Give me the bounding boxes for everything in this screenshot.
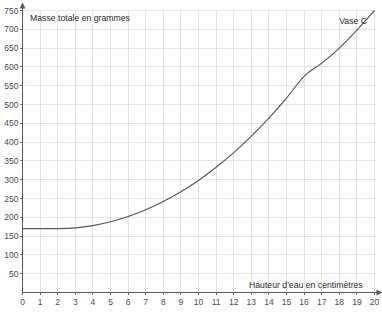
x-tick-label: 4 [91, 297, 96, 307]
x-axis-caption: Hauteur d'eau en centimètres [249, 280, 363, 290]
x-axis-tick-labels: 01234567891011121314151617181920 [20, 297, 379, 307]
x-tick-label: 16 [299, 297, 309, 307]
x-tick-label: 14 [264, 297, 274, 307]
y-tick-label: 50 [9, 269, 19, 279]
x-tick-label: 1 [38, 297, 43, 307]
x-tick-label: 18 [335, 297, 345, 307]
y-tick-label: 100 [4, 250, 18, 260]
x-tick-label: 8 [161, 297, 166, 307]
x-tick-label: 13 [247, 297, 257, 307]
x-tick-label: 19 [352, 297, 362, 307]
chart-plot: 5010015020025030035040045050055060065070… [0, 0, 382, 315]
y-tick-label: 650 [4, 43, 18, 53]
chart-container: 5010015020025030035040045050055060065070… [0, 0, 382, 315]
y-tick-label: 600 [4, 62, 18, 72]
x-tick-label: 3 [73, 297, 78, 307]
y-axis-tick-labels: 5010015020025030035040045050055060065070… [4, 6, 18, 279]
x-tick-label: 0 [20, 297, 25, 307]
x-tick-label: 9 [179, 297, 184, 307]
y-tick-label: 350 [4, 156, 18, 166]
series-label: Vase C [339, 16, 367, 26]
x-tick-label: 15 [282, 297, 292, 307]
x-tick-label: 5 [108, 297, 113, 307]
y-tick-label: 200 [4, 212, 18, 222]
y-tick-label: 500 [4, 100, 18, 110]
x-tick-label: 20 [370, 297, 380, 307]
x-tick-label: 7 [143, 297, 148, 307]
x-tick-label: 12 [229, 297, 239, 307]
y-tick-label: 550 [4, 81, 18, 91]
chart-background [0, 0, 382, 315]
y-tick-label: 400 [4, 137, 18, 147]
x-tick-label: 17 [317, 297, 327, 307]
y-axis-caption: Masse totale en grammes [30, 13, 131, 23]
y-tick-label: 250 [4, 194, 18, 204]
y-tick-label: 300 [4, 175, 18, 185]
x-tick-label: 2 [55, 297, 60, 307]
y-tick-label: 700 [4, 24, 18, 34]
y-tick-label: 750 [4, 6, 18, 16]
x-tick-label: 11 [212, 297, 221, 307]
x-tick-label: 6 [126, 297, 131, 307]
y-tick-label: 450 [4, 118, 18, 128]
x-tick-label: 10 [194, 297, 204, 307]
y-tick-label: 150 [4, 231, 18, 241]
